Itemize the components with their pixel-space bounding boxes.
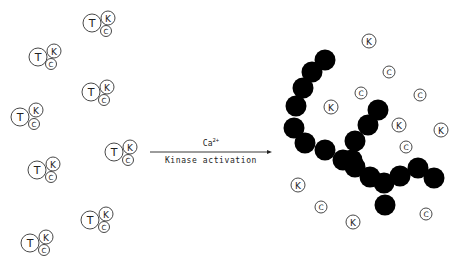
t-subunit: T xyxy=(105,143,123,161)
k-subunit: K xyxy=(123,140,137,154)
chain-bead xyxy=(293,78,314,99)
free-k-particle: K xyxy=(434,123,448,137)
free-c-particle-label: C xyxy=(417,91,422,100)
free-c-particle: C xyxy=(420,208,432,220)
free-c-particle: C xyxy=(355,87,367,99)
free-c-particle: C xyxy=(315,201,327,213)
free-c-particle: C xyxy=(400,141,412,153)
free-c-particle: C xyxy=(383,66,395,78)
arrow-head-icon xyxy=(267,150,272,154)
free-k-particle: K xyxy=(392,118,406,132)
c-subunit-label: C xyxy=(49,61,54,69)
tkc-complexes-group: TKCTKCTKCTKCTKCTKCTKCTKC xyxy=(11,11,137,256)
free-k-particle: K xyxy=(324,100,338,114)
c-subunit: C xyxy=(39,245,50,256)
t-subunit-label: T xyxy=(16,111,24,124)
t-subunit: T xyxy=(29,48,47,66)
free-k-particle: K xyxy=(291,178,305,192)
chain-bead xyxy=(342,150,363,171)
tkc-complex: TKC xyxy=(81,207,113,233)
c-subunit-label: C xyxy=(104,28,109,36)
chain-bead xyxy=(424,168,445,189)
t-subunit-label: T xyxy=(34,51,42,64)
chain-bead xyxy=(286,96,307,117)
t-subunit: T xyxy=(11,108,29,126)
c-subunit: C xyxy=(46,59,57,70)
t-subunit-label: T xyxy=(33,164,41,177)
t-subunit: T xyxy=(81,211,99,229)
c-subunit: C xyxy=(99,95,110,106)
chain-bead xyxy=(375,195,396,216)
k-subunit: K xyxy=(100,80,114,94)
tkc-complex: TKC xyxy=(11,103,43,130)
tkc-complex: TKC xyxy=(29,44,61,70)
c-subunit-label: C xyxy=(42,247,47,255)
c-subunit-label: C xyxy=(102,224,107,232)
tkc-complex: TKC xyxy=(28,157,60,183)
free-c-particle-label: C xyxy=(386,68,391,77)
free-c-particle-label: C xyxy=(318,203,323,212)
tkc-complex: TKC xyxy=(105,140,137,166)
free-c-particle-label: C xyxy=(358,89,363,98)
t-subunit-label: T xyxy=(88,17,96,30)
c-subunit-label: C xyxy=(126,157,131,165)
kinase-activation-label: Kinase activation xyxy=(165,156,257,165)
k-subunit: K xyxy=(101,11,115,25)
k-subunit: K xyxy=(99,207,113,221)
free-k-particle: K xyxy=(346,215,360,229)
free-c-particle-label: C xyxy=(423,210,428,219)
tkc-complex: TKC xyxy=(21,230,53,256)
t-subunit-label: T xyxy=(86,214,94,227)
free-k-particle: K xyxy=(362,34,376,48)
c-subunit: C xyxy=(29,119,40,130)
polymer-chain xyxy=(284,50,445,216)
free-c-particle: C xyxy=(414,89,426,101)
k-subunit: K xyxy=(29,103,43,117)
c-subunit-label: C xyxy=(32,121,37,129)
chain-bead xyxy=(315,140,336,161)
t-subunit: T xyxy=(21,234,39,252)
c-subunit: C xyxy=(123,155,134,166)
t-subunit-label: T xyxy=(87,86,95,99)
tkc-complex: TKC xyxy=(83,11,115,37)
c-subunit: C xyxy=(101,26,112,37)
k-subunit: K xyxy=(46,157,60,171)
c-subunit: C xyxy=(99,222,110,233)
c-subunit-label: C xyxy=(102,97,107,105)
chain-bead xyxy=(295,133,316,154)
free-c-particle-label: C xyxy=(403,143,408,152)
t-subunit-label: T xyxy=(110,146,118,159)
k-subunit: K xyxy=(39,230,53,244)
t-subunit: T xyxy=(83,14,101,32)
t-subunit-label: T xyxy=(26,237,34,250)
k-subunit: K xyxy=(47,44,61,58)
calcium-label: Ca2+ xyxy=(203,137,220,148)
c-subunit: C xyxy=(46,172,57,183)
chain-bead xyxy=(390,166,411,187)
c-subunit-label: C xyxy=(49,174,54,182)
t-subunit: T xyxy=(82,83,100,101)
t-subunit: T xyxy=(28,161,46,179)
reaction-arrow: Ca2+ Kinase activation xyxy=(150,137,272,165)
kinase-activation-diagram: TKCTKCTKCTKCTKCTKCTKCTKC Ca2+ Kinase act… xyxy=(0,0,457,267)
tkc-complex: TKC xyxy=(82,80,114,106)
chain-bead xyxy=(345,131,366,152)
